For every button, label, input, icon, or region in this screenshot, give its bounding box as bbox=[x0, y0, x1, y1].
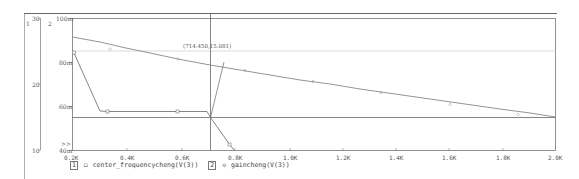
legend-axis-index: 2 bbox=[208, 161, 216, 170]
plot-area bbox=[73, 19, 556, 151]
center-frequency-markers bbox=[73, 51, 232, 146]
axis-overflow-marker: >> bbox=[61, 140, 71, 147]
legend-item-center-frequency[interactable]: 1 ◻ center_frequencycheng(V(3)) bbox=[70, 161, 202, 169]
axis-1-tick-30: 30 bbox=[32, 15, 40, 22]
axis-2-tick-40m: 40m bbox=[59, 147, 72, 154]
axis-2-id: 2 bbox=[48, 20, 52, 27]
legend-label: center_frequencycheng(V(3)) bbox=[93, 161, 199, 169]
x-tick: 1.4K bbox=[389, 154, 403, 161]
x-tick: 0.2K bbox=[64, 154, 78, 161]
axis-1-tick-20: 20 bbox=[32, 81, 40, 88]
x-tick: 1.0K bbox=[283, 154, 297, 161]
x-tick: 1.2K bbox=[336, 154, 350, 161]
diamond-marker-icon: ◇ bbox=[222, 161, 226, 169]
cursor-slope-indicator bbox=[211, 62, 225, 118]
axis-2-tick-60m: 60m bbox=[59, 103, 72, 110]
x-tick: 1.6K bbox=[442, 154, 456, 161]
axis-2-tick-100m: 100m bbox=[56, 15, 73, 22]
square-marker-icon: ◻ bbox=[84, 161, 88, 169]
axis-1-tick-10: 10 bbox=[32, 147, 40, 154]
axis-1-id: 1 bbox=[26, 20, 30, 27]
legend-label: gaincheng(V(3)) bbox=[231, 161, 290, 169]
chart-canvas bbox=[0, 0, 579, 179]
x-tick: 0.4K bbox=[120, 154, 134, 161]
cursor-coordinate-label: (714.450,15.081) bbox=[183, 43, 231, 50]
axis-2-tick-80m: 80m bbox=[59, 59, 72, 66]
x-tick: 1.8K bbox=[496, 154, 510, 161]
x-tick: 0.6K bbox=[175, 154, 189, 161]
x-tick: 0.8K bbox=[228, 154, 242, 161]
x-tick: 2.0K bbox=[548, 154, 562, 161]
series-gaincheng bbox=[73, 37, 556, 117]
legend-axis-index: 1 bbox=[70, 161, 78, 170]
legend-item-gain[interactable]: 2 ◇ gaincheng(V(3)) bbox=[208, 161, 289, 169]
series-center-frequencycheng bbox=[74, 53, 234, 150]
legend: 1 ◻ center_frequencycheng(V(3)) 2 ◇ gain… bbox=[70, 161, 296, 170]
